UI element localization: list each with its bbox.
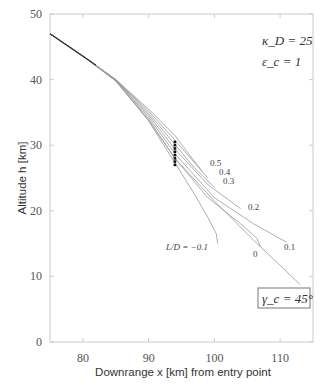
- marker-dot: [174, 150, 177, 153]
- marker-dot: [174, 157, 177, 160]
- y-axis-label: Altitude h [km]: [16, 142, 28, 215]
- y-tick-label: 30: [30, 138, 42, 152]
- label-0.1: 0.1: [284, 242, 295, 252]
- marker-dot: [174, 154, 177, 157]
- x-tick-label: 80: [77, 351, 89, 365]
- x-tick-label: 90: [143, 351, 155, 365]
- trajectory-line: [50, 34, 201, 170]
- label-0: 0: [253, 249, 258, 259]
- trajectory-line: [50, 34, 214, 188]
- kappa-annotation: κ_D = 25: [262, 33, 313, 48]
- x-tick-label: 110: [271, 351, 289, 365]
- y-tick-label: 40: [30, 73, 42, 87]
- label-0.2: 0.2: [248, 202, 259, 212]
- marker-dot: [174, 144, 177, 147]
- epsilon-annotation: ε_c = 1: [262, 54, 301, 69]
- y-tick-label: 10: [30, 269, 42, 283]
- marker-dot: [174, 147, 177, 150]
- trajectory-line: [50, 34, 208, 178]
- marker-dot: [174, 141, 177, 144]
- trajectory-line: [50, 34, 218, 244]
- x-axis-label: Downrange x [km] from entry point: [95, 366, 272, 378]
- marker-dot: [174, 160, 177, 163]
- gamma-annotation: γ_c = 45°: [262, 291, 313, 306]
- chart: 809010011001020304050 0.5 0.4 0.3 0.2 0.…: [0, 0, 323, 387]
- trajectory-line: [50, 34, 241, 209]
- label-0.3: 0.3: [223, 176, 235, 186]
- y-tick-label: 0: [36, 335, 42, 349]
- label-minus-0.1: L/D = −0.1: [165, 242, 208, 252]
- y-tick-label: 50: [30, 7, 42, 21]
- y-tick-label: 20: [30, 204, 42, 218]
- x-tick-label: 100: [205, 351, 223, 365]
- marker-dot: [174, 164, 177, 167]
